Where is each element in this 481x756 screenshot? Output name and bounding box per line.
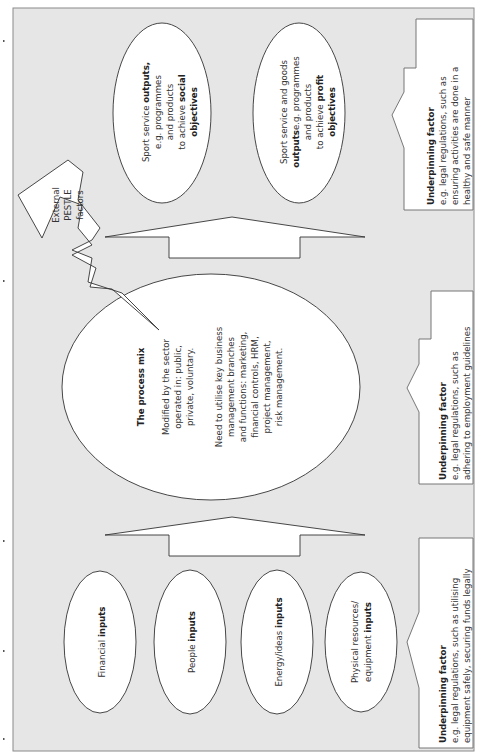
svg-text:operated in: public,: operated in: public, (173, 345, 183, 429)
svg-text:healthy and safe manner: healthy and safe manner (462, 96, 472, 205)
svg-text:and products: and products (165, 83, 175, 140)
svg-text:Financial inputs: Financial inputs (97, 607, 107, 678)
svg-text:financial controls, HRM,: financial controls, HRM, (250, 336, 260, 437)
svg-text:private, voluntary.: private, voluntary. (185, 348, 195, 426)
process-mix: The process mix Modified by the sector o… (62, 274, 360, 500)
svg-text:e.g. legal regulations, such a: e.g. legal regulations, such as (450, 351, 460, 480)
svg-text:e.g. programmes: e.g. programmes (153, 75, 163, 149)
output-social: Sport service outputs, e.g. programmes a… (113, 23, 211, 203)
svg-text:ensuring activities are done i: ensuring activities are done in a (450, 67, 460, 205)
svg-text:The process mix: The process mix (136, 347, 146, 426)
svg-text:management branches: management branches (226, 337, 236, 437)
svg-text:project management,: project management, (262, 341, 272, 434)
svg-text:equipment inputs: equipment inputs (363, 602, 373, 682)
svg-text:risk management.: risk management. (274, 348, 284, 426)
margin-mark (3, 738, 5, 740)
svg-text:Underpinning factor: Underpinning factor (438, 645, 448, 743)
svg-text:Sport service and goods: Sport service and goods (279, 59, 289, 164)
svg-text:PESTLE: PESTLE (63, 189, 73, 221)
svg-text:Sport service outputs,: Sport service outputs, (141, 62, 151, 162)
svg-text:and functions: marketing,: and functions: marketing, (238, 332, 248, 443)
margin-mark (3, 540, 5, 542)
svg-text:and products: and products (303, 83, 313, 140)
svg-text:e.g. legal regulations, such a: e.g. legal regulations, such as (438, 76, 448, 205)
input-people: People inputs (154, 570, 226, 714)
input-physical-resources: Physical resources/ equipment inputs (325, 572, 397, 712)
margin-mark (3, 40, 5, 42)
input-financial: Financial inputs (64, 571, 136, 713)
margin-mark (3, 650, 5, 652)
svg-text:Need to utilise key business: Need to utilise key business (214, 326, 224, 447)
input-energy-ideas: Energy/ideas inputs (241, 570, 313, 714)
margin-mark (3, 280, 5, 282)
svg-text:objectives: objectives (327, 87, 337, 137)
svg-text:equipment safely, securing fun: equipment safely, securing funds legally (462, 568, 472, 743)
svg-text:People inputs: People inputs (187, 611, 197, 673)
svg-text:Underpinning factor: Underpinning factor (426, 107, 436, 205)
svg-text:adhering to employment guideli: adhering to employment guidelines (462, 326, 472, 480)
svg-text:to achieve profit: to achieve profit (315, 75, 325, 149)
output-profit: Sport service and goods outputse.g. prog… (253, 23, 345, 203)
svg-text:Underpinning factor: Underpinning factor (438, 382, 448, 480)
svg-text:to achieve social: to achieve social (177, 74, 187, 149)
svg-text:factors: factors (75, 190, 85, 220)
svg-text:Energy/ideas inputs: Energy/ideas inputs (274, 597, 284, 686)
svg-text:Physical resources/: Physical resources/ (350, 601, 360, 683)
svg-text:External: External (51, 187, 61, 223)
svg-text:Modified by the sector: Modified by the sector (161, 338, 171, 435)
svg-text:objectives: objectives (189, 87, 199, 137)
diagram-canvas: Financial inputs People inputs Energy/id… (0, 0, 481, 756)
svg-text:outputse.g. programmes: outputse.g. programmes (291, 56, 301, 168)
svg-text:e.g. legal regulations, such a: e.g. legal regulations, such as utilisin… (450, 578, 460, 743)
